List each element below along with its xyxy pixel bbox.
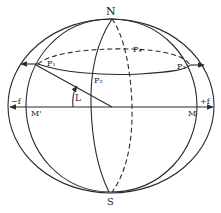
label-m-prime: M' <box>31 109 41 118</box>
parallel-front-solid <box>38 64 190 75</box>
meridian-dashed <box>112 19 132 192</box>
label-angle-l: L <box>75 93 81 103</box>
parallel-back-dashed <box>38 49 190 65</box>
label-m: M <box>188 109 196 118</box>
label-plus-f: +f <box>200 97 211 106</box>
label-p2: P₂ <box>94 76 103 85</box>
inner-meridian <box>26 19 197 192</box>
label-minus-f: −f <box>11 97 22 106</box>
label-south: S <box>107 196 114 207</box>
label-p1: P₁ <box>47 59 56 68</box>
celestial-sphere-diagram: N S P₁ P₂ P₃ P₄ L −f +f M' M <box>0 0 221 213</box>
label-north: N <box>106 5 116 18</box>
label-p3: P₃ <box>177 62 186 71</box>
label-p4: P₄ <box>133 45 142 54</box>
